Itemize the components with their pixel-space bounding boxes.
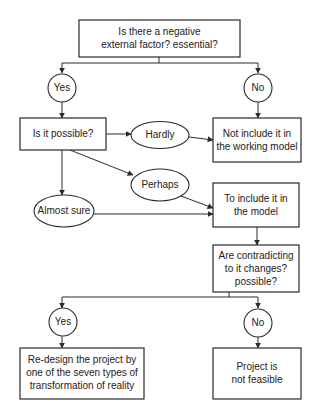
- node-label-line: Yes: [54, 82, 70, 93]
- node-label-line: not feasible: [231, 374, 283, 385]
- node-contradicting-question: Are contradicting to it changes? possibl…: [213, 245, 299, 292]
- node-yes-2: Yes: [49, 308, 77, 336]
- node-hardly: Hardly: [131, 122, 189, 149]
- edge-possible-to-perhaps: [70, 150, 133, 175]
- node-not-include: Not include it in the working model: [213, 118, 301, 162]
- node-label-line: Project is: [236, 361, 277, 372]
- node-label-line: the working model: [216, 141, 297, 152]
- node-label-line: one of the seven types of: [26, 367, 138, 378]
- node-label-line: the model: [234, 206, 278, 217]
- node-label-line: possible?: [235, 276, 278, 287]
- node-label-line: Is there a negative: [118, 26, 201, 37]
- edge-perhaps-to-include: [181, 196, 213, 208]
- node-no-2: No: [244, 309, 272, 337]
- flowchart: Is there a negative external factor? ess…: [0, 0, 319, 418]
- node-label-line: external factor? essential?: [101, 39, 218, 50]
- node-label-line: Hardly: [146, 129, 175, 140]
- node-label-line: Not include it in: [223, 128, 291, 139]
- node-yes-1: Yes: [48, 74, 76, 102]
- node-not-feasible: Project is not feasible: [213, 348, 301, 399]
- node-label-line: to it changes?: [225, 263, 288, 274]
- node-label-line: Are contradicting: [218, 250, 293, 261]
- node-is-it-possible: Is it possible?: [20, 118, 106, 150]
- node-almost-sure: Almost sure: [34, 195, 94, 227]
- node-label-line: Almost sure: [38, 205, 91, 216]
- node-redesign: Re-design the project by one of the seve…: [20, 348, 144, 399]
- node-include: To include it in the model: [213, 183, 299, 227]
- node-label-line: Yes: [55, 316, 71, 327]
- node-external-factor-question: Is there a negative external factor? ess…: [79, 20, 240, 57]
- edge-hardly-to-not-include: [189, 137, 213, 140]
- node-perhaps: Perhaps: [131, 169, 189, 201]
- node-label-line: No: [252, 317, 265, 328]
- node-label-line: Perhaps: [141, 179, 178, 190]
- node-no-1: No: [244, 74, 272, 102]
- node-label-line: No: [252, 82, 265, 93]
- node-label-line: Re-design the project by: [28, 354, 136, 365]
- node-label-line: transformation of reality: [30, 380, 135, 391]
- node-label-line: Is it possible?: [33, 128, 94, 139]
- node-label-line: To include it in: [224, 193, 287, 204]
